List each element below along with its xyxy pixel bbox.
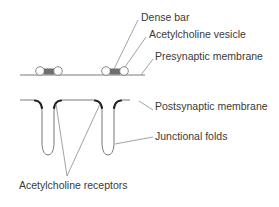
label-ach-vesicle: Acetylcholine vesicle: [149, 29, 246, 40]
label-junctional-folds: Junctional folds: [155, 131, 227, 142]
ach-receptors: [35, 101, 121, 109]
leader-receptor-2: [67, 104, 100, 176]
label-dense-bar: Dense bar: [141, 12, 189, 23]
leader-dense-bar: [114, 20, 138, 69]
leader-junctional-folds: [115, 137, 153, 144]
receptor-icon: [35, 101, 42, 109]
leader-postsynaptic: [139, 101, 153, 110]
leader-ach-vesicle: [125, 37, 146, 67]
receptor-icon: [114, 101, 121, 109]
leader-receptor-1: [56, 104, 67, 176]
neuromuscular-junction-diagram: Dense bar Acetylcholine vesicle Presynap…: [0, 0, 279, 207]
active-zone-2: [102, 67, 129, 76]
label-postsynaptic-membrane: Postsynaptic membrane: [155, 101, 268, 112]
label-presynaptic-membrane: Presynaptic membrane: [155, 51, 263, 62]
dense-bar-icon: [44, 69, 54, 75]
vesicle-icon: [120, 67, 129, 76]
vesicle-icon: [36, 67, 45, 76]
label-ach-receptors: Acetylcholine receptors: [19, 180, 128, 191]
active-zone-1: [36, 67, 63, 76]
leader-presynaptic: [141, 59, 153, 75]
vesicle-icon: [102, 67, 111, 76]
receptor-icon: [54, 101, 61, 109]
dense-bar-icon: [110, 69, 120, 75]
vesicle-icon: [54, 67, 63, 76]
